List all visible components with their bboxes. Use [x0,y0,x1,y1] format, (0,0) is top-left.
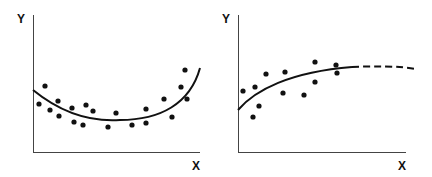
data-point [312,59,317,64]
data-point [80,122,85,127]
data-point [252,84,257,89]
data-point [56,113,61,118]
data-point [184,96,189,101]
data-point [55,98,60,103]
data-point [334,70,339,75]
data-point [301,92,306,97]
data-point [312,79,317,84]
left-chart: Y X [17,12,200,173]
left-x-axis-label: X [192,159,200,173]
data-point [113,110,118,115]
data-point [83,102,88,107]
data-point [333,62,338,67]
charts-canvas: Y X Y X [0,0,432,177]
right-scatter-points [240,59,339,119]
data-point [263,71,268,76]
data-point [42,83,47,88]
data-point [169,114,174,119]
data-point [161,96,166,101]
right-y-axis-label: Y [222,12,230,26]
data-point [240,88,245,93]
data-point [282,69,287,74]
data-point [143,106,148,111]
data-point [47,107,52,112]
data-point [105,124,110,129]
data-point [69,105,74,110]
data-point [256,103,261,108]
data-point [71,119,76,124]
data-point [36,101,41,106]
data-point [129,122,134,127]
data-point [250,114,255,119]
data-point [280,90,285,95]
right-fit-curve-extrapolated [352,66,416,69]
data-point [143,120,148,125]
right-x-axis-label: X [398,159,406,173]
right-chart: Y X [222,12,416,173]
data-point [182,67,187,72]
left-y-axis-label: Y [17,12,25,26]
data-point [90,108,95,113]
data-point [178,84,183,89]
